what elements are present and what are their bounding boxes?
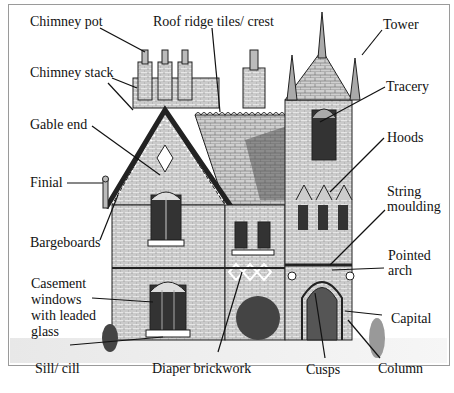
label-sill: Sill/ cill [35,361,80,377]
chimney-stack [133,50,265,108]
label-column: Column [378,361,423,377]
label-string-moulding-line2: moulding [387,199,441,215]
house-illustration [0,0,454,393]
label-casement-line3: with leaded [31,308,96,324]
label-pointed-arch-line2: arch [388,263,412,279]
label-finial: Finial [30,175,63,191]
label-pointed-arch-line1: Pointed [388,248,431,264]
label-casement-line4: glass [31,324,59,340]
label-capital: Capital [391,311,431,327]
label-casement-line1: Casement [31,276,86,292]
label-tracery: Tracery [386,79,429,95]
label-cusps: Cusps [306,362,340,378]
label-tower: Tower [383,17,419,33]
label-chimney-pot: Chimney pot [30,14,103,30]
label-diaper-brickwork: Diaper brickwork [152,361,251,377]
label-gable-end: Gable end [30,117,87,133]
label-chimney-stack: Chimney stack [30,65,114,81]
tower [285,12,360,340]
label-roof-ridge: Roof ridge tiles/ crest [153,14,274,30]
label-hoods: Hoods [387,130,424,146]
label-bargeboards: Bargeboards [30,235,101,251]
label-casement-line2: windows [31,292,82,308]
label-string-moulding-line1: String [387,184,421,200]
